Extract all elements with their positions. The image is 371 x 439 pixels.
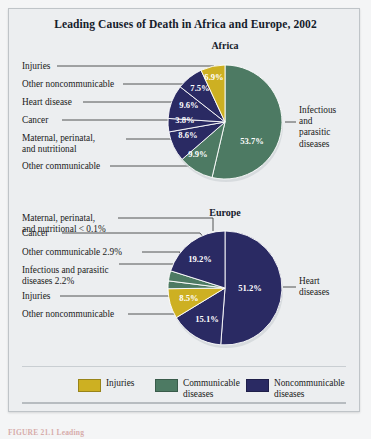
africa-label-other-communicable: Other communicable [22, 161, 100, 172]
europe-label-infectious-parasitic: Infectious and parasitic diseases 2.2% [22, 265, 109, 287]
europe-value-other-noncommunicable: 15.1% [195, 314, 219, 324]
europe-value-injuries: 8.5% [179, 293, 198, 303]
legend-swatch-communicable [155, 379, 178, 392]
europe-label-other-noncommunicable: Other noncommunicable [22, 309, 114, 320]
africa-value-injuries: 6.9% [204, 72, 223, 82]
africa-label-injuries: Injuries [22, 61, 50, 72]
africa-value-infectious: 53.7% [240, 136, 264, 146]
africa-value-maternal: 8.6% [178, 130, 197, 140]
europe-pie-chart: 51.2% 15.1% 8.5% 19.2% [160, 224, 292, 356]
legend-label-injuries: Injuries [106, 378, 134, 389]
europe-label-cancer: Cancer [22, 228, 48, 239]
legend-label-noncommunicable: Noncommunicable diseases [274, 378, 345, 399]
africa-label-maternal-perinatal: Maternal, perinatal, and nutritional [22, 133, 95, 155]
legend-swatch-noncommunicable [246, 379, 269, 392]
figure-caption: FIGURE 21.1 Leading [8, 428, 84, 437]
africa-value-heart: 9.6% [179, 100, 198, 110]
africa-pie-chart: 53.7% 9.9% 8.6% 3.8% 9.6% 7.5% 6.9% [160, 58, 292, 190]
europe-region-label: Europe [180, 207, 270, 218]
europe-label-other-communicable: Other communicable 2.9% [22, 247, 122, 258]
africa-value-cancer: 3.8% [175, 115, 194, 125]
legend-item-noncommunicable: Noncommunicable diseases [246, 378, 345, 399]
legend-swatch-injuries [78, 379, 101, 392]
chart-title: Leading Causes of Death in Africa and Eu… [0, 18, 371, 30]
africa-value-other-noncommunicable: 7.5% [190, 83, 209, 93]
legend: Injuries Communicable diseases Noncommun… [22, 366, 346, 404]
africa-value-other-communicable: 9.9% [188, 149, 207, 159]
africa-label-heart-disease: Heart disease [22, 97, 72, 108]
europe-value-cancer: 19.2% [188, 254, 212, 264]
legend-label-communicable: Communicable diseases [183, 378, 240, 399]
africa-label-other-noncommunicable: Other noncommunicable [22, 79, 114, 90]
africa-region-label: Africa [180, 40, 270, 51]
europe-label-injuries: Injuries [22, 291, 50, 302]
africa-label-cancer: Cancer [22, 115, 48, 126]
europe-label-heart-diseases: Heart diseases [299, 276, 329, 298]
europe-value-heart: 51.2% [238, 283, 262, 293]
legend-item-communicable: Communicable diseases [155, 378, 240, 399]
legend-item-injuries: Injuries [78, 378, 134, 392]
africa-label-infectious-parasitic: Infectious and parasitic diseases [299, 105, 336, 150]
